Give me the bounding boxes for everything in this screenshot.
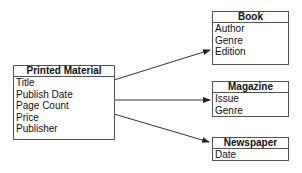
attribute: Page Count (14, 100, 114, 112)
arrow-to-book (114, 50, 210, 80)
attribute: Date (213, 149, 288, 161)
class-printed-material: Printed Material Title Publish Date Page… (13, 65, 115, 140)
attribute: Title (14, 77, 114, 89)
class-newspaper: Newspaper Date (212, 137, 289, 161)
arrow-to-newspaper (114, 114, 209, 142)
class-title: Newspaper (213, 138, 288, 149)
attribute: Publish Date (14, 89, 114, 101)
class-magazine: Magazine Issue Genre (212, 81, 289, 117)
attribute: Genre (213, 35, 288, 47)
class-title: Book (213, 12, 288, 23)
class-book: Book Author Genre Edition (212, 11, 289, 65)
attribute: Author (213, 23, 288, 35)
attribute: Edition (213, 46, 288, 58)
attribute: Issue (213, 93, 288, 105)
class-title: Printed Material (14, 66, 114, 77)
attribute: Price (14, 112, 114, 124)
attribute: Publisher (14, 123, 114, 135)
attribute: Genre (213, 105, 288, 117)
class-title: Magazine (213, 82, 288, 93)
